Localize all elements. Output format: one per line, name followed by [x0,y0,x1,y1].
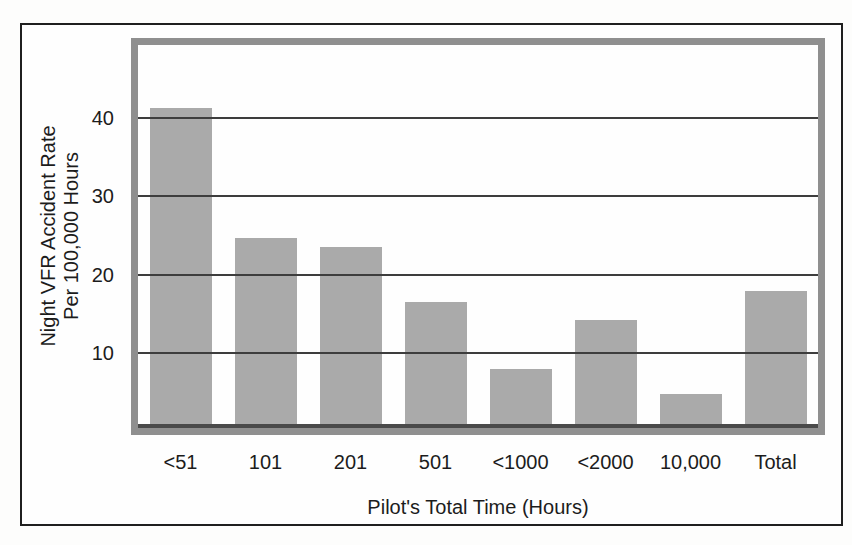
y-axis-title-line1: Night VFR Accident Rate [37,96,60,376]
chart-outer-frame: Night VFR Accident Rate Per 100,000 Hour… [20,23,843,526]
gridline-20 [138,274,818,276]
y-axis-title: Night VFR Accident Rate Per 100,000 Hour… [37,96,83,376]
bar-<1000 [490,369,552,428]
y-tick-label-40: 40 [34,106,114,130]
bar-10,000 [660,394,722,428]
gridline-30 [138,195,818,197]
bar-<51 [150,108,212,428]
x-tick-label-<51: <51 [138,450,223,474]
x-tick-label-Total: Total [733,450,818,474]
y-axis-title-line2: Per 100,000 Hours [60,96,83,376]
x-tick-label-<1000: <1000 [478,450,563,474]
gridline-40 [138,117,818,119]
bar-<2000 [575,320,637,428]
bar-101 [235,238,297,428]
y-tick-label-20: 20 [34,263,114,287]
x-tick-label-<2000: <2000 [563,450,648,474]
x-tick-label-101: 101 [223,450,308,474]
x-axis-line [138,424,818,428]
gridline-10 [138,352,818,354]
plot-area [131,38,825,435]
bar-Total [745,291,807,429]
x-tick-label-10,000: 10,000 [648,450,733,474]
x-axis-tick-labels: <51101201501<1000<200010,000Total [138,450,818,474]
y-tick-label-30: 30 [34,184,114,208]
x-axis-title: Pilot's Total Time (Hours) [131,495,825,519]
x-tick-label-501: 501 [393,450,478,474]
plot-inner-area [138,45,818,428]
x-tick-label-201: 201 [308,450,393,474]
y-tick-label-10: 10 [34,341,114,365]
scanned-bar-chart-figure: Night VFR Accident Rate Per 100,000 Hour… [0,0,852,545]
bar-501 [405,302,467,428]
